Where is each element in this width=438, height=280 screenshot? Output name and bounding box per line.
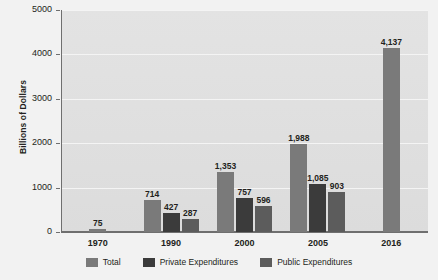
y-tick-mark xyxy=(56,188,60,189)
legend-item: Private Expenditures xyxy=(143,257,238,267)
y-axis-line xyxy=(61,10,62,232)
y-axis-title: Billions of Dollars xyxy=(18,47,28,187)
y-tick-mark xyxy=(56,99,60,100)
legend-item: Total xyxy=(86,257,121,267)
bar-public xyxy=(255,206,272,232)
y-tick-mark xyxy=(56,10,60,11)
bar-total xyxy=(383,48,400,232)
y-tick-label: 5000 xyxy=(8,4,52,14)
x-tick-label: 1970 xyxy=(68,238,128,248)
legend-label: Private Expenditures xyxy=(160,257,238,267)
y-tick-mark xyxy=(56,143,60,144)
gridline xyxy=(61,54,428,55)
gridline xyxy=(61,143,428,144)
legend-label: Public Expenditures xyxy=(277,257,352,267)
legend-swatch-icon xyxy=(143,258,155,267)
chart-legend: TotalPrivate ExpendituresPublic Expendit… xyxy=(0,257,438,267)
gridline xyxy=(61,10,428,11)
legend-item: Public Expenditures xyxy=(260,257,352,267)
bar-public xyxy=(328,192,345,232)
bar-value-label: 596 xyxy=(251,195,277,205)
bar-public xyxy=(182,219,199,232)
bar-total xyxy=(290,144,307,232)
bar-total xyxy=(217,172,234,232)
y-tick-label: 3000 xyxy=(8,93,52,103)
x-tick-label: 2016 xyxy=(361,238,421,248)
x-tick-label: 2000 xyxy=(215,238,275,248)
gridline xyxy=(61,99,428,100)
legend-swatch-icon xyxy=(260,258,272,267)
y-tick-mark xyxy=(56,232,60,233)
bar-value-label: 903 xyxy=(324,181,350,191)
bar-chart: Billions of Dollars 01000200030004000500… xyxy=(0,0,438,280)
bar-total xyxy=(89,229,106,232)
x-tick-label: 2005 xyxy=(288,238,348,248)
bar-value-label: 714 xyxy=(139,189,165,199)
y-tick-mark xyxy=(56,54,60,55)
bar-value-label: 4,137 xyxy=(378,37,404,47)
bar-value-label: 287 xyxy=(177,208,203,218)
y-tick-label: 2000 xyxy=(8,137,52,147)
bar-value-label: 1,988 xyxy=(286,133,312,143)
y-tick-label: 1000 xyxy=(8,182,52,192)
y-tick-label: 4000 xyxy=(8,48,52,58)
x-tick-label: 1990 xyxy=(141,238,201,248)
legend-label: Total xyxy=(103,257,121,267)
y-tick-label: 0 xyxy=(8,226,52,236)
legend-swatch-icon xyxy=(86,258,98,267)
bar-private xyxy=(309,184,326,232)
bar-value-label: 75 xyxy=(85,218,111,228)
bar-value-label: 1,353 xyxy=(213,161,239,171)
